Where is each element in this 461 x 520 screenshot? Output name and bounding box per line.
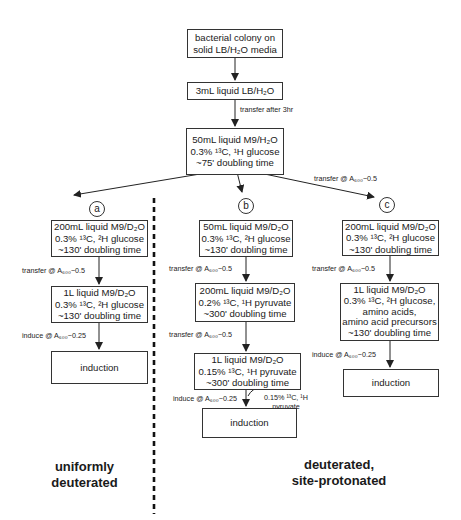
box-line: ~300' doubling time <box>206 377 289 389</box>
footer-line: deuterated, <box>283 457 395 473</box>
box-line: 1L liquid M9/D₂O <box>63 287 135 299</box>
box-3ml-lb: 3mL liquid LB/H₂O <box>187 82 283 100</box>
box-c-200ml: 200mL liquid M9/D₂O 0.3% ¹³C, ²H glucose… <box>342 220 439 256</box>
box-line: 1L liquid M9/D₂O <box>211 354 283 366</box>
box-line: ~130' doubling time <box>348 328 431 339</box>
box-line: 200mL liquid M9/D₂O <box>200 285 291 297</box>
branch-marker-a: a <box>89 201 105 217</box>
box-b-200ml: 200mL liquid M9/D₂O 0.2% ¹³C, ¹H pyruvat… <box>195 283 295 322</box>
box-line: 50mL liquid M9/D₂O <box>203 221 288 233</box>
box-bacterial-colony: bacterial colony on solid LB/H₂O media <box>187 29 283 58</box>
box-b-1l: 1L liquid M9/D₂O 0.15% ¹³C, ¹H pyruvate … <box>194 353 301 390</box>
box-line: induction <box>80 362 118 374</box>
label-b-induce: induce @ A₆₀₀~0.25 <box>173 394 237 403</box>
label-transfer-after-3hr: transfer after 3hr <box>240 105 293 114</box>
side-add-line: 0.15% ¹³C, ¹H <box>264 393 308 402</box>
footer-label-uniformly-deuterated: uniformly deuterated <box>47 459 122 491</box>
box-50ml-m9-h2o: 50mL liquid M9/H₂O 0.3% ¹³C, ¹H glucose … <box>186 128 284 175</box>
box-line: 0.2% ¹³C, ¹H pyruvate <box>199 297 292 309</box>
box-line: 0.3% ¹³C, ²H glucose <box>346 232 435 244</box>
box-line: 0.3% ¹³C, ²H glucose, <box>344 296 436 307</box>
label-branch-c-transfer: transfer @ A₆₀₀~0.5 <box>314 174 377 183</box>
footer-line: site-protonated <box>283 473 395 489</box>
box-line: induction <box>230 417 268 429</box>
branch-marker-b: b <box>238 198 254 214</box>
box-c-induction: induction <box>343 369 439 397</box>
box-line: 0.3% ¹³C, ²H glucose <box>201 233 290 245</box>
footer-label-site-protonated: deuterated, site-protonated <box>283 457 395 489</box>
box-a-1l: 1L liquid M9/D₂O 0.3% ¹³C, ²H glucose ~1… <box>51 286 148 323</box>
box-line: 50mL liquid M9/H₂O <box>192 134 277 146</box>
label-c-induce: induce @ A₆₀₀~0.25 <box>312 350 376 359</box>
box-line: bacterial colony on <box>195 32 275 44</box>
label-a-induce: induce @ A₆₀₀~0.25 <box>22 331 86 340</box>
box-line: 0.3% ¹³C, ¹H glucose <box>190 146 279 158</box>
box-a-200ml: 200mL liquid M9/D₂O 0.3% ¹³C, ²H glucose… <box>51 220 148 257</box>
box-line: ~130' doubling time <box>349 244 432 256</box>
box-line: 3mL liquid LB/H₂O <box>196 85 275 97</box>
box-line: ~300' doubling time <box>203 308 286 320</box>
box-line: 200mL liquid M9/D₂O <box>54 221 145 233</box>
branch-marker-c: c <box>379 197 395 213</box>
label-a-transfer: transfer @ A₆₀₀~0.5 <box>22 266 85 275</box>
label-c-transfer: transfer @ A₆₀₀~0.5 <box>312 264 375 273</box>
label-b-transfer-2: transfer @ A₆₀₀~0.5 <box>169 330 232 339</box>
box-line: 0.3% ¹³C, ²H glucose <box>55 233 144 245</box>
box-c-1l: 1L liquid M9/D₂O 0.3% ¹³C, ²H glucose, a… <box>340 283 439 341</box>
box-line: ~130' doubling time <box>58 244 141 256</box>
box-b-50ml: 50mL liquid M9/D₂O 0.3% ¹³C, ²H glucose … <box>199 220 293 257</box>
box-line: 0.3% ¹³C, ²H glucose <box>55 299 144 311</box>
box-line: 0.15% ¹³C, ¹H pyruvate <box>198 366 296 378</box>
connector-layer <box>0 0 461 520</box>
box-line: ~130' doubling time <box>58 310 141 322</box>
box-b-induction: induction <box>202 408 297 438</box>
box-line: ~75' doubling time <box>196 157 274 169</box>
box-line: 200mL liquid M9/D₂O <box>345 221 436 233</box>
box-line: induction <box>372 377 410 389</box>
box-a-induction: induction <box>51 351 148 384</box>
footer-line: uniformly <box>47 459 122 475</box>
footer-line: deuterated <box>47 475 122 491</box>
box-line: ~130' doubling time <box>204 244 287 256</box>
box-line: solid LB/H₂O media <box>193 44 277 56</box>
label-b-transfer-1: transfer @ A₆₀₀~0.5 <box>169 264 232 273</box>
